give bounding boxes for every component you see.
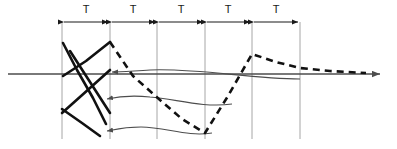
figure-container: T T T T T	[0, 0, 397, 149]
interval-marker-group: T T T T T	[64, 3, 298, 22]
interval-marker: T	[254, 3, 298, 22]
waveform-diagram-svg: T T T T T	[0, 0, 397, 149]
interval-marker: T	[159, 3, 203, 22]
solid-trace-group	[62, 42, 110, 136]
solid-trace-falling-b	[62, 109, 100, 136]
annotation-arrow-middle	[107, 96, 232, 105]
solid-trace-crossing-c	[70, 51, 110, 113]
interval-label: T	[225, 3, 232, 15]
dashed-response-curve	[110, 42, 366, 133]
interval-marker: T	[112, 3, 155, 22]
interval-marker: T	[64, 3, 108, 22]
interval-label: T	[178, 3, 185, 15]
interval-label: T	[83, 3, 90, 15]
annotation-arrow-group	[107, 70, 300, 134]
interval-label: T	[273, 3, 280, 15]
interval-marker: T	[207, 3, 250, 22]
solid-trace-falling-a	[63, 43, 106, 124]
interval-label: T	[130, 3, 137, 15]
